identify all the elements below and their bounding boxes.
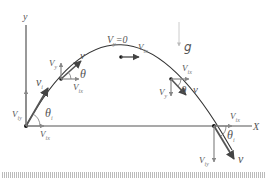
ascending-point-group: v Vy θ Vix xyxy=(49,49,86,94)
gravity-indicator: g xyxy=(179,22,192,54)
launch-vy-label: Viy xyxy=(12,109,22,121)
descending-velocity-label: v xyxy=(193,83,198,95)
ascending-vx-label: Vix xyxy=(73,82,83,94)
descending-vy-label: Vy xyxy=(159,87,168,99)
landing-point-group: Vix θi Viy v xyxy=(199,111,244,167)
descending-point-group: Vix θ v Vy xyxy=(159,63,198,99)
launch-vx-label: Vix xyxy=(40,129,50,141)
apex-point-group: Vy=0 Vix xyxy=(107,34,148,59)
ground-hatch xyxy=(2,172,266,178)
ascending-angle-label: θ xyxy=(80,67,86,81)
descending-angle-label: θ xyxy=(181,83,187,95)
y-axis-label: y xyxy=(22,11,28,22)
apex-vx-label: Vix xyxy=(138,42,148,54)
launch-angle-arc xyxy=(33,114,40,126)
ascending-velocity-label: v xyxy=(80,49,85,61)
x-axis-label: X xyxy=(252,121,260,132)
ascending-vy-label: Vy xyxy=(49,58,58,70)
gravity-label: g xyxy=(184,40,192,54)
launch-point-group: Viy θi Vix vi xyxy=(12,75,53,141)
projectile-motion-diagram: y X g Viy θi Vix vi v Vy θ Vix Vy=0 V xyxy=(0,0,268,181)
ascending-angle-arc xyxy=(68,72,71,79)
landing-angle-label: θi xyxy=(227,128,235,143)
launch-velocity-label: vi xyxy=(36,75,43,90)
launch-angle-label: θi xyxy=(45,106,53,121)
descending-vx-label: Vix xyxy=(182,63,192,75)
axes: y X xyxy=(22,11,260,132)
landing-velocity-label: v xyxy=(238,152,244,166)
landing-vy-label: Viy xyxy=(199,155,209,167)
landing-vx-label: Vix xyxy=(230,111,240,123)
